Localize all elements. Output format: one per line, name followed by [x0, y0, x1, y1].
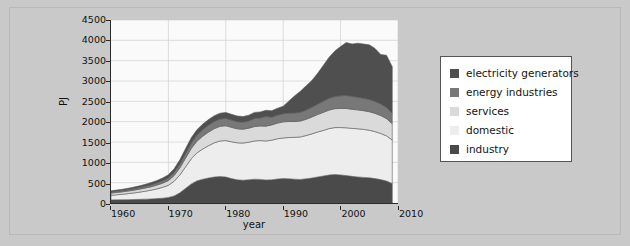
x-axis-tick-label: 1970 — [169, 209, 193, 219]
x-axis-tick-label: 1990 — [284, 209, 308, 219]
y-axis-tick-mark — [106, 81, 110, 82]
legend-item-services[interactable]: services — [450, 102, 563, 121]
y-axis-tick-mark — [106, 184, 110, 185]
legend-swatch-icon — [450, 88, 459, 97]
y-axis-tick-label: 500 — [60, 179, 106, 189]
legend-item-electricity-generators[interactable]: electricity generators — [450, 64, 563, 83]
y-axis-tick-label: 2500 — [60, 97, 106, 107]
legend-swatch-icon — [450, 126, 459, 135]
legend-item-energy-industries[interactable]: energy industries — [450, 83, 563, 102]
area-series-group — [111, 20, 398, 203]
x-axis-tick-label: 1980 — [226, 209, 250, 219]
x-axis-tick-labels: 196019701980199020002010 — [110, 206, 398, 220]
legend-item-industry[interactable]: industry — [450, 140, 563, 159]
plot-area — [110, 20, 398, 204]
legend-swatch-icon — [450, 145, 459, 154]
y-axis-tick-label: 3500 — [60, 56, 106, 66]
x-axis-tick-label: 2010 — [399, 209, 423, 219]
x-axis-tick-label: 2000 — [341, 209, 365, 219]
legend-item-domestic[interactable]: domestic — [450, 121, 563, 140]
y-axis-tick-mark — [106, 163, 110, 164]
chart-page: PJ 196019701980199020002010 year 0500100… — [0, 0, 630, 246]
x-axis-title: year — [110, 219, 398, 230]
y-axis-tick-label: 0 — [60, 199, 106, 209]
y-axis-tick-mark — [106, 102, 110, 103]
y-axis-tick-mark — [106, 20, 110, 21]
y-axis-tick-mark — [106, 143, 110, 144]
legend-item-label: energy industries — [466, 87, 558, 98]
stacked-area-chart: PJ 196019701980199020002010 year 0500100… — [60, 14, 408, 214]
chart-legend: electricity generators energy industries… — [440, 56, 572, 162]
legend-item-label: electricity generators — [466, 68, 579, 79]
y-axis-tick-label: 1000 — [60, 158, 106, 168]
legend-item-label: domestic — [466, 125, 514, 136]
y-axis-tick-mark — [106, 204, 110, 205]
x-axis-tick-label: 1960 — [111, 209, 135, 219]
y-axis-tick-label: 1500 — [60, 138, 106, 148]
y-axis-tick-mark — [106, 61, 110, 62]
legend-swatch-icon — [450, 69, 459, 78]
y-axis-tick-label: 3000 — [60, 76, 106, 86]
y-axis-tick-mark — [106, 40, 110, 41]
y-axis-tick-label: 4000 — [60, 35, 106, 45]
legend-item-label: services — [466, 106, 509, 117]
y-axis-tick-label: 4500 — [60, 15, 106, 25]
legend-item-label: industry — [466, 144, 509, 155]
y-axis-tick-mark — [106, 122, 110, 123]
legend-swatch-icon — [450, 107, 459, 116]
y-axis-tick-label: 2000 — [60, 117, 106, 127]
